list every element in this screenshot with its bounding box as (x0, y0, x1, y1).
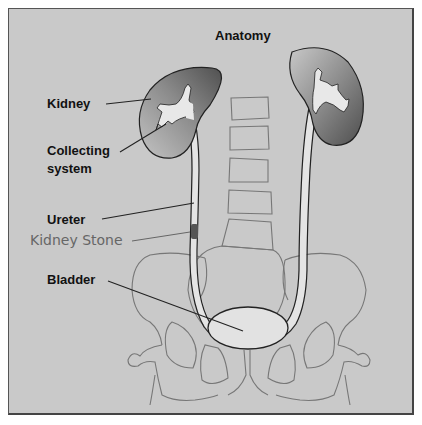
label-kidney: Kidney (47, 96, 91, 111)
diagram-title: Anatomy (215, 28, 271, 43)
right-kidney (290, 48, 364, 146)
urinary-anatomy-diagram: Anatomy (0, 0, 422, 425)
label-bladder: Bladder (47, 272, 95, 287)
label-kidney-stone: Kidney Stone (30, 232, 123, 248)
bladder (208, 307, 288, 349)
label-collecting-system-line1: Collecting (47, 143, 110, 158)
kidney-stone (191, 224, 198, 239)
label-collecting-system-line2: system (47, 161, 92, 176)
left-kidney (139, 67, 221, 158)
label-ureter: Ureter (47, 212, 85, 227)
spine-vertebrae (188, 97, 285, 335)
labels: Kidney Collecting system Ureter Kidney S… (30, 96, 123, 287)
